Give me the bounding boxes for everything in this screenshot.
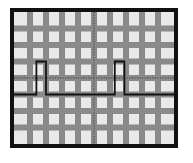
graticule-grid bbox=[14, 12, 174, 144]
scope-bezel bbox=[10, 8, 178, 148]
oscilloscope-display bbox=[0, 0, 193, 163]
scope-screen bbox=[14, 12, 174, 144]
